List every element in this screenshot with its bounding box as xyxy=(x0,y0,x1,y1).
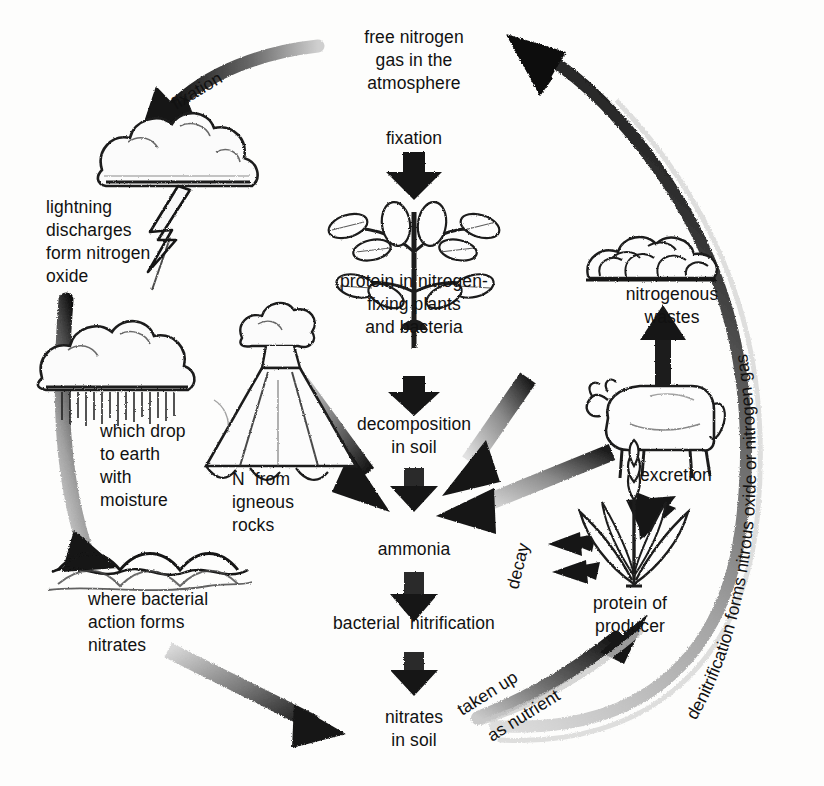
diagram-canvas: fixation decay taken up as nutrient deni… xyxy=(0,0,824,786)
node-free-nitrogen-gas: free nitrogengas in theatmosphere xyxy=(364,26,464,95)
node-fixation-center: fixation xyxy=(386,127,442,150)
node-bacterial-nitrification: bacterial nitrification xyxy=(333,612,495,635)
node-n-from-igneous-rocks: N fromigneousrocks xyxy=(232,468,294,537)
node-which-drop-to-earth: which dropto earthwithmoisture xyxy=(100,420,186,512)
node-nitrogenous-wastes: nitrogenouswastes xyxy=(626,283,719,329)
fixation-down-arrow xyxy=(386,152,442,200)
svg-text:decay: decay xyxy=(502,541,533,591)
plant-to-decomposition-arrow xyxy=(388,376,440,416)
volcano-icon xyxy=(206,303,356,480)
node-protein-of-producer: protein ofproducer xyxy=(593,592,667,638)
node-protein-in-plants: protein in nitrogen-fixing plantsand bac… xyxy=(340,270,488,339)
decomposition-to-ammonia-arrow xyxy=(390,468,438,512)
node-where-bacterial-action: where bacterialaction formsnitrates xyxy=(88,588,208,657)
decay-label: decay xyxy=(502,541,533,591)
node-ammonia: ammonia xyxy=(378,538,451,561)
fixation-arc-label: fixation xyxy=(168,68,226,114)
nitrogen-cycle-diagram: fixation decay taken up as nutrient deni… xyxy=(0,0,824,786)
node-lightning-discharges: lightningdischargesform nitrogenoxide xyxy=(46,196,150,288)
nitrification-to-nitrates-arrow xyxy=(390,652,438,696)
node-excretion: excretion xyxy=(640,464,712,487)
node-nitrates-in-soil: nitratesin soil xyxy=(385,706,443,752)
svg-text:fixation: fixation xyxy=(168,68,226,114)
bacterial-nitrates-to-soil-arrow xyxy=(168,650,346,748)
node-decomposition-in-soil: decompositionin soil xyxy=(357,413,471,459)
